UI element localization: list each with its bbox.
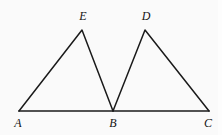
geometry-diagram: A B C E D [0,0,222,135]
triangle-left-AEB [19,30,113,111]
vertex-label-E: E [78,9,87,23]
vertex-label-D: D [141,9,151,23]
vertex-label-B: B [109,116,117,130]
triangle-right-BDC [113,30,209,111]
geometry-figure-canvas: A B C E D [0,0,222,135]
vertex-label-A: A [13,116,22,130]
right-edge-margin [218,0,222,135]
vertex-label-C: C [204,116,213,130]
